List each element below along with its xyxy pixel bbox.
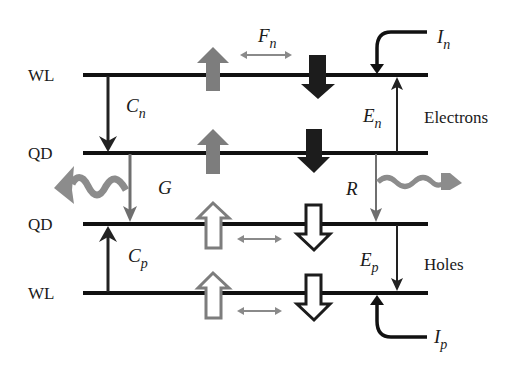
emitted-photon-wave-icon (378, 173, 462, 190)
capture-electrons-label: Cn (126, 95, 146, 121)
spin-flip-label: Fn (257, 25, 277, 51)
escape-electrons-arrow (391, 77, 403, 152)
spin-up-electron-arrow-wl (197, 47, 229, 91)
level-label-wl-bottom: WL (28, 284, 54, 303)
spin-down-hole-arrow-qd (297, 205, 330, 250)
spin-flip-double-arrow (240, 51, 292, 59)
escape-electrons-label: En (362, 105, 382, 131)
injection-electrons-arrow (370, 32, 427, 74)
holes-group-label: Holes (424, 255, 464, 274)
hole-spin-flip-double-arrow-qd (237, 235, 282, 243)
level-label-qd-upper: QD (28, 144, 53, 163)
capture-holes-label: Cp (128, 245, 148, 271)
generation-label: G (158, 177, 172, 198)
injection-holes-arrow (370, 295, 427, 337)
escape-holes-arrow (391, 225, 403, 291)
capture-holes-arrow (99, 226, 117, 292)
escape-holes-label: Ep (359, 249, 379, 275)
electrons-group-label: Electrons (424, 108, 488, 127)
level-label-wl-top: WL (28, 66, 54, 85)
recombination-arrow (370, 154, 382, 222)
level-label-qd-lower: QD (28, 215, 53, 234)
injection-electrons-label: In (436, 26, 450, 52)
recombination-label: R (345, 178, 358, 199)
qd-carrier-diagram: WL QD QD WL Cn G Cp (0, 0, 522, 366)
spin-down-hole-arrow-wl (297, 275, 330, 320)
capture-electrons-arrow (99, 76, 117, 152)
injection-holes-label: Ip (433, 326, 447, 352)
hole-spin-flip-double-arrow-wl (237, 307, 282, 315)
spin-up-hole-arrow-wl (198, 273, 229, 318)
absorbed-photon-wave-icon (54, 166, 126, 204)
